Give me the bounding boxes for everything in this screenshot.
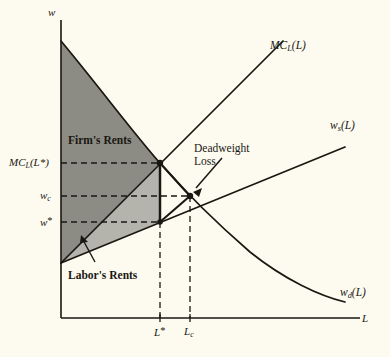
x-tick-label-l-star: L*: [154, 325, 165, 338]
curve-wd-tail: (L): [352, 286, 366, 298]
region-label-labors-rents: Labor's Rents: [68, 269, 137, 282]
curve-label-labor-supply: ws(L): [330, 119, 355, 133]
curve-ws-main: w: [330, 119, 338, 131]
region-label-firms-rents: Firm's Rents: [68, 134, 132, 147]
curve-label-labor-demand: wd(L): [340, 286, 366, 300]
y-tick-mc-tail: (L*): [30, 156, 49, 168]
diagram-canvas: [0, 0, 390, 357]
x-axis-label: L: [362, 312, 368, 324]
y-tick-label-w-competitive: wc: [40, 189, 51, 204]
y-tick-wstar-tail: *: [47, 215, 52, 226]
callout-deadweight-loss-line2: Loss: [194, 155, 250, 168]
x-tick-lstar-tail: *: [160, 325, 165, 336]
y-tick-label-w-star: w*: [40, 215, 53, 228]
curve-ws-tail: (L): [341, 119, 355, 131]
curve-mc-tail: (L): [292, 39, 306, 51]
curve-label-marginal-cost-of-labor: MCL(L): [270, 39, 306, 53]
deadweight-loss-arrow-head: [193, 188, 202, 197]
x-tick-label-l-competitive: Lc: [184, 325, 194, 340]
curve-wd-main: w: [340, 286, 348, 298]
point-competitive-equilibrium: [187, 193, 193, 199]
deadweight-loss-triangle: [160, 163, 190, 222]
y-axis-label: w: [48, 6, 55, 18]
x-tick-lc-sub: c: [190, 330, 194, 339]
point-monopsony-wage: [157, 219, 163, 225]
monopsony-labor-market-diagram: w L MCL(L*) wc w* L* Lc MCL(L) ws(L) wd(…: [0, 0, 390, 357]
y-tick-label-mc-at-lstar: MCL(L*): [9, 156, 49, 171]
callout-deadweight-loss: Deadweight Loss: [194, 142, 250, 168]
curve-mc-main: MC: [270, 39, 287, 51]
callout-deadweight-loss-line1: Deadweight: [194, 142, 250, 155]
y-tick-mc-main: MC: [9, 156, 26, 168]
y-tick-wc-sub: c: [47, 194, 51, 203]
point-monopsony-outcome: [157, 160, 163, 166]
